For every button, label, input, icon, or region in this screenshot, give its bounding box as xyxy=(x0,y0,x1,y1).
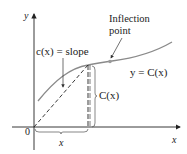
inflection-label-line2: point xyxy=(109,25,131,36)
cost-function-diagram: y x 0 c(x) = slope Inflection point y = … xyxy=(0,0,187,154)
curve-label: y = C(x) xyxy=(130,66,168,79)
base-label: x xyxy=(58,137,64,148)
slope-label: c(x) = slope xyxy=(36,45,89,58)
inflection-label-line1: Inflection xyxy=(109,13,151,24)
y-axis-label: y xyxy=(23,10,29,21)
base-brace xyxy=(35,129,88,134)
height-brace xyxy=(92,66,97,127)
x-axis-label: x xyxy=(171,134,177,145)
height-label: C(x) xyxy=(99,89,120,102)
inflection-pointer-arrow xyxy=(111,38,122,58)
origin-label: 0 xyxy=(25,126,30,137)
inflection-point-marker xyxy=(108,60,112,64)
